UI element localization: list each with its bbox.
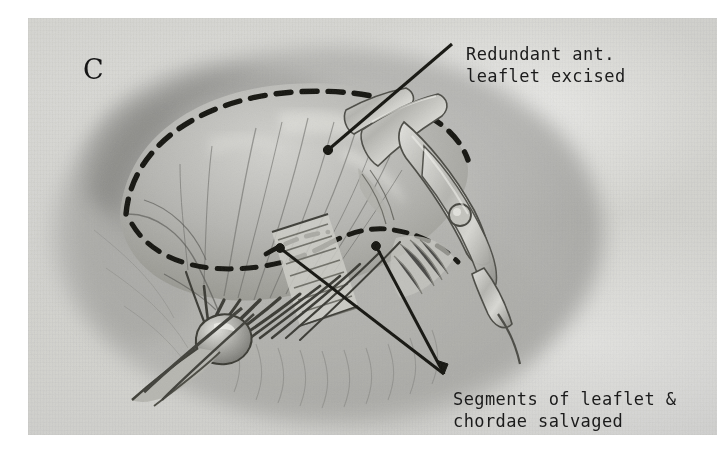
panel-letter: C: [83, 54, 104, 85]
annotation-line-1: Redundant ant.: [466, 44, 615, 64]
annotation-redundant-leaflet: Redundant ant.leaflet excised: [466, 44, 626, 88]
annotation-line-2: leaflet excised: [466, 66, 626, 86]
illustration-plate: C Redundant ant.leaflet excised Segments…: [28, 18, 717, 435]
annotation-salvaged-segments: Segments of leaflet &chordae salvaged: [453, 389, 676, 433]
annotation-line-1: Segments of leaflet &: [453, 389, 676, 409]
annotation-line-2: chordae salvaged: [453, 411, 623, 431]
figure-panel: C Redundant ant.leaflet excised Segments…: [0, 0, 717, 461]
